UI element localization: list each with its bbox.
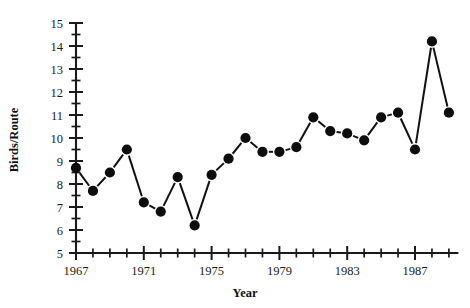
- ticks-group: [69, 23, 449, 260]
- line-chart-plot: 5678910111213141519671971197519791983198…: [0, 0, 470, 308]
- x-tick-label: 1987: [403, 264, 428, 278]
- data-series-group: [80, 48, 448, 220]
- y-tick-label: 11: [51, 109, 63, 123]
- series-segment: [286, 149, 291, 150]
- series-segment: [337, 132, 341, 133]
- y-tick-label: 8: [57, 178, 63, 192]
- data-point-marker: [376, 112, 386, 122]
- data-point-marker: [359, 135, 369, 145]
- data-point-marker: [240, 133, 250, 143]
- series-segment: [216, 163, 224, 170]
- data-point-marker: [257, 147, 267, 157]
- data-point-marker: [173, 172, 183, 182]
- data-point-marker: [223, 154, 233, 164]
- series-segment: [114, 155, 123, 168]
- series-segment: [433, 48, 447, 107]
- data-point-marker: [274, 147, 284, 157]
- series-segment: [401, 119, 413, 144]
- y-tick-label: 7: [57, 201, 63, 215]
- data-point-marker: [342, 128, 352, 138]
- y-tick-label: 13: [51, 63, 64, 77]
- series-segment: [164, 183, 175, 206]
- series-segment: [97, 177, 105, 186]
- x-tick-label: 1979: [267, 264, 292, 278]
- y-tick-label: 14: [51, 40, 64, 54]
- data-point-marker: [308, 112, 318, 122]
- series-segment: [197, 181, 210, 219]
- series-segment: [149, 205, 155, 208]
- y-tick-label: 15: [51, 17, 64, 31]
- data-point-marker: [71, 163, 81, 173]
- series-segment: [180, 183, 193, 219]
- x-tick-label: 1971: [131, 264, 156, 278]
- data-point-marker: [427, 36, 437, 46]
- series-segment: [300, 123, 311, 142]
- x-axis-title: Year: [233, 286, 258, 300]
- data-point-marker: [88, 186, 98, 196]
- series-segment: [368, 122, 377, 135]
- x-tick-label: 1967: [64, 264, 89, 278]
- x-tick-label: 1975: [199, 264, 224, 278]
- data-point-marker: [122, 144, 132, 154]
- chart-container: 5678910111213141519671971197519791983198…: [0, 0, 470, 308]
- series-segment: [387, 114, 392, 115]
- series-segment: [129, 156, 142, 197]
- series-segment: [353, 136, 358, 138]
- data-point-marker: [393, 108, 403, 118]
- y-tick-label: 10: [51, 132, 64, 146]
- series-segment: [416, 48, 431, 143]
- axes-group: [76, 23, 457, 253]
- y-axis-title: Birds/Route: [7, 107, 21, 172]
- data-point-marker: [139, 197, 149, 207]
- data-point-marker: [207, 170, 217, 180]
- data-point-marker: [190, 220, 200, 230]
- data-point-marker: [410, 144, 420, 154]
- series-segment: [318, 121, 325, 127]
- series-segment: [250, 142, 257, 148]
- data-point-marker: [291, 142, 301, 152]
- series-segment: [233, 143, 242, 154]
- data-point-marker: [444, 108, 454, 118]
- y-tick-label: 5: [57, 247, 63, 261]
- data-point-marker: [105, 167, 115, 177]
- y-tick-label: 6: [57, 224, 63, 238]
- data-point-marker: [156, 207, 166, 217]
- x-tick-label: 1983: [335, 264, 360, 278]
- data-point-marker: [325, 126, 335, 136]
- y-tick-label: 12: [51, 86, 64, 100]
- y-tick-label: 9: [57, 155, 63, 169]
- data-markers-group: [71, 36, 454, 230]
